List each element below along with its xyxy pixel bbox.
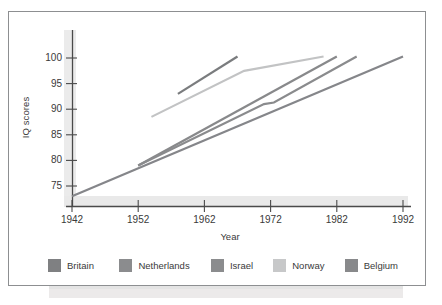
- x-tick-label-1972: 1972: [251, 214, 291, 225]
- legend-swatch-belgium: [345, 259, 358, 272]
- y-axis-band: [64, 30, 76, 206]
- legend-swatch-israel: [211, 259, 224, 272]
- series-lines: [72, 56, 403, 196]
- legend-label-belgium: Belgium: [364, 260, 398, 271]
- legend-item-britain[interactable]: Britain: [48, 259, 119, 272]
- x-axis-title: Year: [200, 231, 260, 242]
- x-tick-label-1952: 1952: [118, 214, 158, 225]
- legend-item-belgium[interactable]: Belgium: [345, 259, 398, 272]
- y-tick-label-75: 75: [36, 180, 62, 191]
- x-tick-label-1962: 1962: [184, 214, 224, 225]
- legend-item-israel[interactable]: Israel: [211, 259, 273, 272]
- x-tick-label-1942: 1942: [52, 214, 92, 225]
- x-tick-label-1992: 1992: [383, 214, 423, 225]
- legend-item-norway[interactable]: Norway: [273, 259, 344, 272]
- y-tick-label-95: 95: [36, 78, 62, 89]
- figure-page: IQ scores 100 95 90 85 80 75 1942 1952 1…: [0, 0, 442, 305]
- x-tick-label-1982: 1982: [317, 214, 357, 225]
- series-line-norway: [151, 56, 323, 116]
- series-line-netherlands: [138, 56, 337, 165]
- legend-item-netherlands[interactable]: Netherlands: [119, 259, 211, 272]
- y-tick-label-85: 85: [36, 129, 62, 140]
- legend-label-netherlands: Netherlands: [138, 260, 189, 271]
- legend-swatch-netherlands: [119, 259, 132, 272]
- legend-swatch-norway: [273, 259, 286, 272]
- series-line-belgium: [72, 56, 403, 196]
- legend-label-norway: Norway: [292, 260, 324, 271]
- legend-label-israel: Israel: [230, 260, 253, 271]
- legend-label-britain: Britain: [67, 260, 94, 271]
- series-line-israel: [138, 56, 356, 165]
- y-tick-label-80: 80: [36, 154, 62, 165]
- chart-legend: Britain Netherlands Israel Norway Belgiu…: [48, 255, 398, 275]
- legend-swatch-britain: [48, 259, 61, 272]
- x-axis-band: [64, 196, 408, 207]
- y-tick-label-100: 100: [36, 52, 62, 63]
- y-tick-label-90: 90: [36, 103, 62, 114]
- y-axis-title: IQ scores: [20, 88, 31, 148]
